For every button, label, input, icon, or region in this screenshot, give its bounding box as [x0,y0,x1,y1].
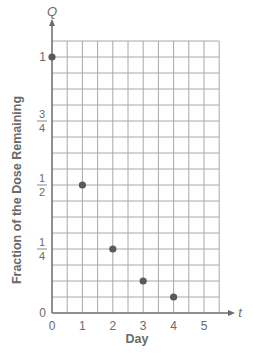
x-tick-label: 2 [109,319,116,333]
data-point [140,277,147,284]
x-tick-label: 0 [49,319,56,333]
x-axis-symbol: t [238,305,243,320]
y-tick-label: 1 [39,50,46,64]
y-tick-label: 0 [39,306,46,320]
y-tick-denominator: 2 [39,186,45,198]
y-axis-symbol: Q [47,4,57,19]
x-tick-label: 4 [170,319,177,333]
y-tick-numerator: 1 [39,172,45,184]
x-tick-label: 1 [79,319,86,333]
data-point [79,181,86,188]
y-tick-numerator: 1 [39,236,45,248]
data-point [48,53,55,60]
data-point [109,245,116,252]
x-tick-label: 3 [140,319,147,333]
x-tick-label: 5 [201,319,208,333]
data-point [170,293,177,300]
x-axis-label: Day [126,332,149,346]
y-axis-label: Fraction of the Dose Remaining [10,96,24,284]
x-axis-arrow-icon [228,310,235,316]
y-tick-denominator: 4 [39,122,45,134]
chart-plot: Qt01234501412341 [0,0,253,363]
y-tick-denominator: 4 [39,250,45,262]
y-tick-numerator: 3 [39,108,45,120]
y-axis-arrow-icon [49,19,55,26]
